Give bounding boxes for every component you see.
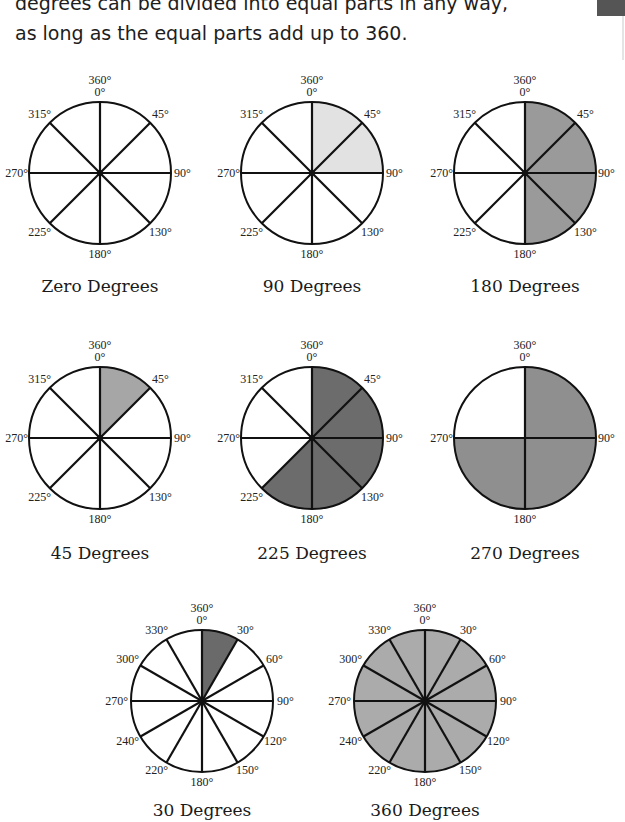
circle-30-degrees (131, 630, 273, 772)
circle-45-degrees (29, 367, 171, 509)
svg-text:180°: 180° (414, 775, 437, 789)
svg-text:225°: 225° (240, 490, 263, 504)
circle-360-degrees (354, 630, 496, 772)
svg-text:60°: 60° (266, 652, 283, 666)
svg-text:180°: 180° (191, 775, 214, 789)
svg-text:270°: 270° (5, 431, 28, 445)
svg-text:90°: 90° (277, 694, 294, 708)
svg-text:130°: 130° (361, 225, 384, 239)
svg-text:90°: 90° (598, 431, 615, 445)
svg-text:60°: 60° (489, 652, 506, 666)
svg-text:315°: 315° (240, 372, 263, 386)
svg-text:180°: 180° (301, 247, 324, 261)
svg-text:225°: 225° (453, 225, 476, 239)
svg-text:220°: 220° (145, 763, 168, 777)
svg-text:300°: 300° (116, 652, 139, 666)
svg-text:120°: 120° (487, 734, 510, 748)
svg-text:180°: 180° (514, 247, 537, 261)
svg-text:130°: 130° (149, 225, 172, 239)
svg-text:330°: 330° (145, 623, 168, 637)
svg-text:270°: 270° (217, 431, 240, 445)
svg-text:240°: 240° (339, 734, 362, 748)
svg-text:150°: 150° (236, 763, 259, 777)
svg-text:315°: 315° (240, 107, 263, 121)
svg-text:0°: 0° (95, 85, 106, 99)
caption-360-degrees: 360 Degrees (370, 800, 479, 820)
svg-text:225°: 225° (28, 225, 51, 239)
svg-text:0°: 0° (307, 350, 318, 364)
caption-45-degrees: 45 Degrees (51, 543, 150, 563)
svg-text:45°: 45° (152, 107, 169, 121)
svg-text:45°: 45° (152, 372, 169, 386)
svg-text:120°: 120° (264, 734, 287, 748)
svg-text:0°: 0° (95, 350, 106, 364)
svg-text:240°: 240° (116, 734, 139, 748)
svg-text:225°: 225° (240, 225, 263, 239)
svg-text:30°: 30° (237, 623, 254, 637)
caption-270-degrees: 270 Degrees (470, 543, 579, 563)
svg-text:270°: 270° (430, 166, 453, 180)
svg-text:90°: 90° (598, 166, 615, 180)
svg-text:180°: 180° (89, 247, 112, 261)
svg-text:180°: 180° (514, 512, 537, 526)
circle-zero-degrees (29, 102, 171, 244)
svg-text:270°: 270° (328, 694, 351, 708)
svg-text:45°: 45° (364, 372, 381, 386)
svg-text:45°: 45° (577, 107, 594, 121)
svg-text:180°: 180° (301, 512, 324, 526)
caption-225-degrees: 225 Degrees (257, 543, 366, 563)
svg-text:90°: 90° (500, 694, 517, 708)
svg-text:330°: 330° (368, 623, 391, 637)
svg-text:0°: 0° (197, 613, 208, 627)
svg-text:0°: 0° (420, 613, 431, 627)
svg-text:0°: 0° (520, 350, 531, 364)
svg-text:225°: 225° (28, 490, 51, 504)
svg-text:220°: 220° (368, 763, 391, 777)
svg-text:90°: 90° (386, 431, 403, 445)
svg-text:270°: 270° (5, 166, 28, 180)
svg-text:0°: 0° (520, 85, 531, 99)
svg-text:45°: 45° (364, 107, 381, 121)
svg-text:315°: 315° (453, 107, 476, 121)
caption-zero-degrees: Zero Degrees (41, 276, 158, 296)
svg-text:270°: 270° (430, 431, 453, 445)
svg-text:30°: 30° (460, 623, 477, 637)
caption-30-degrees: 30 Degrees (153, 800, 252, 820)
svg-text:180°: 180° (89, 512, 112, 526)
svg-text:150°: 150° (459, 763, 482, 777)
svg-text:90°: 90° (174, 166, 191, 180)
degree-diagrams: 360° 0° 45° 90° 130° 180° 225° 270° 315°… (0, 0, 625, 822)
svg-text:270°: 270° (105, 694, 128, 708)
svg-text:315°: 315° (28, 107, 51, 121)
svg-text:130°: 130° (574, 225, 597, 239)
circle-270-degrees (454, 367, 596, 509)
svg-text:0°: 0° (307, 85, 318, 99)
svg-text:270°: 270° (217, 166, 240, 180)
svg-text:130°: 130° (149, 490, 172, 504)
svg-text:90°: 90° (174, 431, 191, 445)
svg-text:315°: 315° (28, 372, 51, 386)
circle-90-degrees (241, 102, 383, 244)
circle-180-degrees (454, 102, 596, 244)
circle-225-degrees (241, 367, 383, 509)
svg-text:300°: 300° (339, 652, 362, 666)
svg-text:90°: 90° (386, 166, 403, 180)
svg-text:130°: 130° (361, 490, 384, 504)
caption-90-degrees: 90 Degrees (263, 276, 362, 296)
caption-180-degrees: 180 Degrees (470, 276, 579, 296)
